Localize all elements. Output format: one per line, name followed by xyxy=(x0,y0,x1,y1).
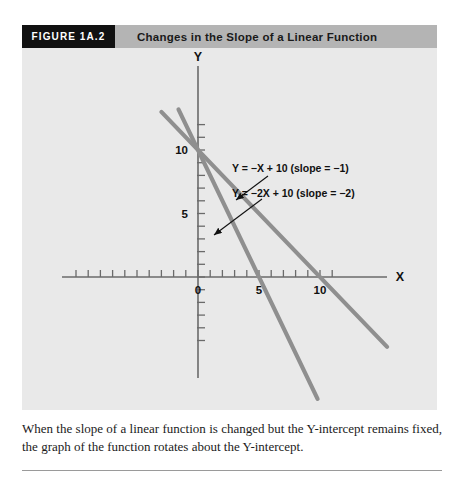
y-tick-label: 5 xyxy=(182,208,189,220)
y-tick-label: 10 xyxy=(175,144,188,156)
x-tick-label: 10 xyxy=(314,284,327,296)
x-axis-label: X xyxy=(396,270,405,284)
chart-series-lines xyxy=(161,109,387,399)
x-tick-label: 0 xyxy=(195,284,201,296)
linear-function-chart: 0510 510 Y = −X + 10 (slope = −1)Y = −2X… xyxy=(22,48,437,410)
x-axis-tick-labels: 0510 xyxy=(195,284,327,296)
annotation-label: Y = −X + 10 (slope = −1) xyxy=(232,162,349,174)
bottom-divider xyxy=(22,470,442,471)
y-axis-tick-labels: 510 xyxy=(175,144,188,220)
chart-axes xyxy=(62,66,387,378)
figure-title: Changes in the Slope of a Linear Functio… xyxy=(115,25,377,48)
figure-number-label: FIGURE 1A.2 xyxy=(32,31,106,42)
figure-header: FIGURE 1A.2 Changes in the Slope of a Li… xyxy=(22,25,437,48)
figure-number-box: FIGURE 1A.2 xyxy=(22,25,115,48)
figure-caption: When the slope of a linear function is c… xyxy=(22,420,442,455)
y-axis-label: Y xyxy=(194,50,203,64)
annotation-label: Y = −2X + 10 (slope = −2) xyxy=(232,187,355,199)
x-axis-ticks xyxy=(76,270,332,277)
chart-panel: 0510 510 Y = −X + 10 (slope = −1)Y = −2X… xyxy=(22,48,437,410)
